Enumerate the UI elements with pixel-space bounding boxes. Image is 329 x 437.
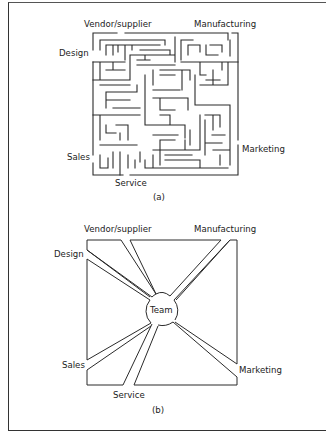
label-a-vendor: Vendor/supplier	[84, 19, 152, 29]
label-b-manufacturing: Manufacturing	[194, 224, 256, 234]
maze-inner-walls	[93, 37, 238, 175]
maze	[93, 33, 238, 175]
label-a-manufacturing: Manufacturing	[194, 19, 256, 29]
label-b-marketing: Marketing	[239, 365, 282, 375]
label-a-marketing: Marketing	[242, 144, 285, 154]
label-a-service: Service	[115, 178, 147, 188]
label-b-vendor: Vendor/supplier	[84, 224, 152, 234]
figure: Vendor/supplier Manufacturing Design Sal…	[0, 0, 329, 437]
caption-b: (b)	[152, 405, 164, 415]
label-b-sales: Sales	[62, 360, 85, 370]
figure-a: Vendor/supplier Manufacturing Design Sal…	[59, 19, 285, 202]
caption-a: (a)	[153, 192, 165, 202]
maze-outer-wall	[93, 33, 238, 175]
label-b-service: Service	[113, 390, 145, 400]
figure-b: Vendor/supplier Manufacturing Design Sal…	[54, 224, 282, 415]
label-a-sales: Sales	[67, 152, 90, 162]
team-label: Team	[149, 305, 173, 315]
label-b-design: Design	[54, 249, 84, 259]
label-a-design: Design	[59, 48, 89, 58]
